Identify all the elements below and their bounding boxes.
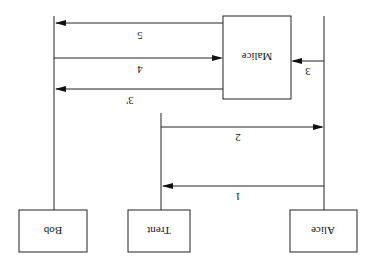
participant-malice-label: Malice bbox=[242, 51, 273, 63]
arrowhead-icon bbox=[291, 58, 302, 64]
message-1: 1 bbox=[162, 183, 324, 203]
message-1-label: 1 bbox=[235, 191, 241, 203]
arrowhead-icon bbox=[162, 183, 173, 189]
message-4: 4 bbox=[54, 55, 223, 76]
participant-alice-label: Alice bbox=[311, 225, 335, 237]
participant-bob: Bob bbox=[19, 210, 87, 252]
participant-trent-label: Trent bbox=[147, 225, 170, 237]
arrowhead-icon bbox=[55, 20, 66, 26]
message-3: 3 bbox=[291, 58, 324, 78]
message-3-prime-label: 3' bbox=[126, 95, 134, 107]
sequence-diagram: Bob Trent Alice Malice 5 4 3' 3 2 bbox=[0, 0, 380, 267]
message-3-prime: 3' bbox=[55, 86, 223, 107]
participant-alice: Alice bbox=[290, 210, 357, 252]
participant-bob-label: Bob bbox=[43, 225, 62, 237]
message-2-label: 2 bbox=[235, 132, 241, 144]
message-5-label: 5 bbox=[137, 30, 143, 42]
arrowhead-icon bbox=[212, 55, 223, 61]
message-4-label: 4 bbox=[137, 64, 143, 76]
message-3-label: 3 bbox=[305, 66, 311, 78]
participant-trent: Trent bbox=[128, 210, 190, 252]
participant-malice: Malice bbox=[223, 16, 291, 99]
arrowhead-icon bbox=[55, 86, 66, 92]
arrowhead-icon bbox=[313, 124, 324, 130]
message-5: 5 bbox=[55, 20, 223, 42]
message-2: 2 bbox=[161, 124, 324, 144]
